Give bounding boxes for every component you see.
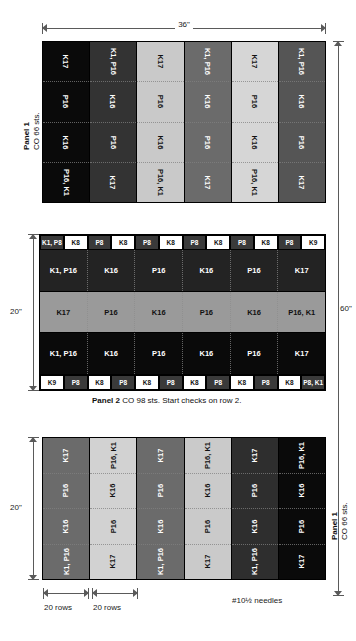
arrow-down-icon xyxy=(334,591,342,596)
check-cell: K8 xyxy=(111,235,135,250)
stitch-cell: K17 xyxy=(278,333,325,374)
stitch-cell: K17 xyxy=(232,438,278,474)
check-cell: K9 xyxy=(301,235,325,250)
panel2-band-1: K1, P16 K16 P16 K16 P16 K17 xyxy=(40,250,325,292)
dimension-overall-height-value: 60" xyxy=(339,303,353,314)
stitch-cell: P16, K1 xyxy=(185,438,231,474)
stitch-cell: K17 xyxy=(185,545,231,580)
panel3-column-2: P16, K1 K16 P16 K17 xyxy=(90,438,137,579)
stitch-cell: K16 xyxy=(88,250,136,291)
stitch-cell: K1, P16 xyxy=(185,42,231,82)
stitch-cell: K16 xyxy=(231,292,279,333)
panel2-top-check-row: K1, P8 K8 P8 K8 P8 K8 P8 K8 P8 K8 P8 K9 xyxy=(40,235,325,250)
arrow-up-icon xyxy=(29,234,37,239)
check-cell: K8 xyxy=(183,375,207,390)
panel3-column-5: K17 P16 K16 K1, P16 xyxy=(232,438,279,579)
panel-2-chart: K1, P8 K8 P8 K8 P8 K8 P8 K8 P8 K8 P8 K9 … xyxy=(39,234,326,391)
stitch-cell: K16 xyxy=(90,82,136,122)
stitch-cell: K16 xyxy=(43,509,89,545)
check-cell: K8 xyxy=(159,235,183,250)
stitch-cell: K17 xyxy=(279,545,325,580)
stitch-cell: K16 xyxy=(279,474,325,510)
panel1-column-5: K17 P16 K16 P16, K1 xyxy=(232,42,279,202)
stitch-cell: K17 xyxy=(278,250,325,291)
panel1-column-2: K1, P16 K16 P16 K17 xyxy=(90,42,137,202)
panel-1-label-sub: CO 66 sts. xyxy=(32,112,41,150)
stitch-cell: P16, K1 xyxy=(232,163,278,202)
dimension-panel3-height-value: 20" xyxy=(9,502,23,513)
needles-note: #10½ needles xyxy=(232,596,282,605)
stitch-cell: K17 xyxy=(279,163,325,202)
dimension-rows-left-value: 20 rows xyxy=(44,603,72,612)
panel-3-chart: K17 P16 K16 K1, P16 P16, K1 K16 P16 K17 … xyxy=(42,437,326,580)
stitch-cell: P16 xyxy=(90,509,136,545)
stitch-cell: K17 xyxy=(40,292,88,333)
panel-1-label: Panel 1 CO 66 sts. xyxy=(22,112,42,150)
stitch-cell: P16, K1 xyxy=(43,163,89,202)
dimension-line xyxy=(33,238,34,387)
panel1-column-1: K17 P16 K16 P16, K1 xyxy=(43,42,90,202)
panel-3-label: Panel 1 CO 66 sts. xyxy=(330,502,350,540)
stitch-cell: K17 xyxy=(43,438,89,474)
panel3-column-1: K17 P16 K16 K1, P16 xyxy=(43,438,90,579)
stitch-cell: K1, P16 xyxy=(137,545,183,580)
stitch-cell: K16 xyxy=(90,474,136,510)
panel-2-caption: Panel 2 CO 98 sts. Start checks on row 2… xyxy=(92,396,241,405)
stitch-cell: P16, K1 xyxy=(278,292,325,333)
panel-2-caption-rest: CO 98 sts. Start checks on row 2. xyxy=(120,396,241,405)
check-cell: P8 xyxy=(88,235,112,250)
stitch-cell: K17 xyxy=(137,438,183,474)
arrow-right-icon xyxy=(84,589,89,597)
panel2-bottom-check-row: K9 P8 K8 P8 K8 P8 K8 P8 K8 P8 K8 P8, K1 xyxy=(40,375,325,390)
check-cell: K8 xyxy=(206,235,230,250)
stitch-cell: K17 xyxy=(137,42,183,82)
check-cell: K8 xyxy=(135,375,159,390)
stitch-cell: K1, P16 xyxy=(279,42,325,82)
panel3-column-4: P16, K1 K16 P16 K17 xyxy=(185,438,232,579)
dimension-line xyxy=(33,441,34,576)
check-cell: P8, K1 xyxy=(301,375,325,390)
stitch-cell: K16 xyxy=(279,82,325,122)
panel2-band-3: K1, P16 K16 P16 K16 P16 K17 xyxy=(40,333,325,375)
panel-3-label-title: Panel 1 xyxy=(330,512,339,540)
dimension-panel2-height xyxy=(29,234,38,391)
stitch-cell: P16 xyxy=(232,474,278,510)
stitch-cell: K1, P16 xyxy=(90,42,136,82)
stitch-cell: P16 xyxy=(279,509,325,545)
stitch-cell: K17 xyxy=(90,545,136,580)
schematic-root: 36" K17 P16 K16 P16, K1 K1, P16 K16 P16 … xyxy=(0,0,356,641)
stitch-cell: P16 xyxy=(183,292,231,333)
stitch-cell: P16 xyxy=(88,292,136,333)
check-cell: P8 xyxy=(135,235,159,250)
stitch-cell: K17 xyxy=(43,42,89,82)
stitch-cell: K16 xyxy=(232,509,278,545)
check-cell: K8 xyxy=(254,235,278,250)
check-cell: P8 xyxy=(230,235,254,250)
arrow-left-icon xyxy=(43,589,48,597)
stitch-cell: K16 xyxy=(137,123,183,163)
panel-2-caption-title: Panel 2 xyxy=(92,396,120,405)
arrow-down-icon xyxy=(29,575,37,580)
check-cell: P8 xyxy=(111,375,135,390)
stitch-cell: K17 xyxy=(185,163,231,202)
arrow-up-icon xyxy=(29,437,37,442)
panel1-column-6: K1, P16 K16 P16 K17 xyxy=(279,42,325,202)
stitch-cell: P16 xyxy=(137,474,183,510)
stitch-cell: P16 xyxy=(137,82,183,122)
dimension-rows-right xyxy=(92,589,138,598)
dimension-panel3-height xyxy=(29,437,38,580)
stitch-cell: K16 xyxy=(135,292,183,333)
stitch-cell: P16 xyxy=(185,123,231,163)
dimension-panel2-height-value: 20" xyxy=(9,306,23,317)
check-cell: K1, P8 xyxy=(40,235,64,250)
stitch-cell: P16 xyxy=(43,82,89,122)
stitch-cell: P16 xyxy=(135,333,183,374)
stitch-cell: K1, P16 xyxy=(232,545,278,580)
dimension-top-width: 36" xyxy=(42,24,326,33)
panel3-column-6: P16, K1 K16 P16 K17 xyxy=(279,438,325,579)
stitch-cell: P16 xyxy=(43,474,89,510)
stitch-cell: P16 xyxy=(90,123,136,163)
stitch-cell: P16, K1 xyxy=(137,163,183,202)
panel-3-label-sub: CO 66 sts. xyxy=(340,502,349,540)
check-cell: P8 xyxy=(206,375,230,390)
